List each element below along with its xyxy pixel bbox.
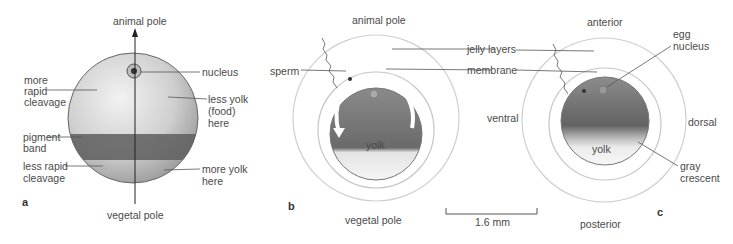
label-band: band — [23, 142, 46, 154]
label-posterior: posterior — [580, 218, 621, 230]
label-crescent: crescent — [680, 172, 720, 184]
panel-b-egg — [293, 35, 495, 201]
panel-a-egg — [47, 28, 210, 204]
panel-c-egg — [516, 38, 686, 202]
label-animal-pole-b: animal pole — [352, 14, 406, 26]
label-less-yolk: less yolk — [208, 93, 248, 105]
label-here-1: here — [208, 117, 229, 129]
label-cleavage-1: cleavage — [24, 96, 66, 108]
scale-bar-label: 1.6 mm — [475, 216, 510, 228]
label-less-rapid: less rapid — [23, 160, 68, 172]
label-food: (food) — [208, 105, 235, 117]
label-membrane: membrane — [467, 64, 517, 76]
panel-label-b: b — [288, 200, 295, 212]
panel-label-a: a — [22, 196, 28, 208]
label-egg: egg — [673, 28, 691, 40]
diagram-canvas — [0, 0, 733, 244]
label-yolk-b: yolk — [366, 139, 385, 151]
label-dorsal: dorsal — [688, 116, 717, 128]
label-vegetal-pole-a: vegetal pole — [107, 209, 164, 221]
label-more-yolk: more yolk — [202, 163, 248, 175]
label-egg-nucleus: nucleus — [673, 40, 709, 52]
panel-label-c: c — [657, 206, 663, 218]
label-anterior: anterior — [587, 16, 623, 28]
label-vegetal-pole-b: vegetal pole — [345, 214, 402, 226]
label-ventral: ventral — [487, 112, 519, 124]
scale-bar — [446, 208, 537, 214]
label-jelly-layers: jelly layers — [467, 43, 516, 55]
label-yolk-c: yolk — [592, 143, 611, 155]
label-gray: gray — [680, 160, 700, 172]
label-cleavage-2: cleavage — [23, 172, 65, 184]
label-nucleus: nucleus — [202, 66, 238, 78]
label-animal-pole-a: animal pole — [113, 15, 167, 27]
label-here-2: here — [202, 175, 223, 187]
label-sperm: sperm — [270, 65, 299, 77]
